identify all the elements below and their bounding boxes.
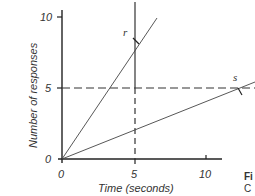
y-tick-label-0: 0 <box>45 153 52 165</box>
chart: 10 5 0 0 5 10 Time (seconds) Number of r… <box>0 0 255 196</box>
figure-caption-line1: Fi <box>244 171 253 182</box>
x-axis-title: Time (seconds) <box>98 182 174 194</box>
series-s-marker <box>238 88 242 95</box>
x-tick-label-10: 10 <box>199 168 212 180</box>
series-s-label: s <box>233 71 237 83</box>
y-tick-label-10: 10 <box>40 11 53 23</box>
series-s-line <box>62 82 255 159</box>
x-tick-label-0: 0 <box>58 168 65 180</box>
series-r-marker <box>133 38 139 44</box>
series-r-label: r <box>123 26 128 38</box>
y-axis-title: Number of responses <box>27 42 39 148</box>
y-tick-label-5: 5 <box>45 82 52 94</box>
figure-caption-line2: C <box>244 183 251 194</box>
x-tick-label-5: 5 <box>131 168 138 180</box>
